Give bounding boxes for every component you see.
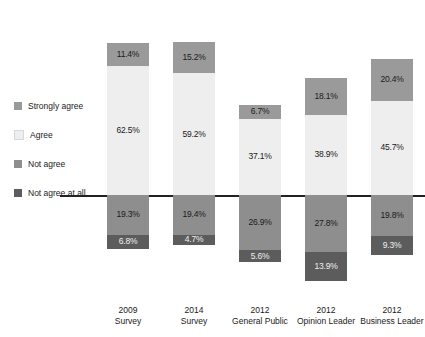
bar-segment-value-label: 37.1% bbox=[248, 152, 271, 161]
bar-segment-value-label: 19.8% bbox=[380, 211, 403, 220]
bar-segment-value-label: 19.3% bbox=[116, 210, 139, 219]
bar-segment-not-agree[interactable]: 19.8% bbox=[371, 195, 413, 236]
bar-segment-value-label: 20.4% bbox=[380, 75, 403, 84]
bar-segment-strongly-agree[interactable]: 11.4% bbox=[107, 43, 149, 66]
plot-area: 11.4%62.5%19.3%6.8%2009Survey15.2%59.2%1… bbox=[85, 8, 417, 293]
bar-segment-value-label: 4.7% bbox=[185, 235, 204, 244]
category-label-line: 2012 bbox=[347, 305, 425, 316]
bar-stack: 15.2%59.2%19.4%4.7% bbox=[173, 42, 215, 245]
legend-swatch-agree bbox=[14, 130, 24, 140]
bar-segment-agree[interactable]: 37.1% bbox=[239, 119, 281, 195]
bar-column[interactable]: 6.7%37.1%26.9%5.6% bbox=[239, 8, 281, 293]
bar-stack: 11.4%62.5%19.3%6.8% bbox=[107, 43, 149, 249]
bar-segment-value-label: 18.1% bbox=[314, 92, 337, 101]
bar-segment-not-agree-at-all[interactable]: 9.3% bbox=[371, 236, 413, 255]
bar-segment-strongly-agree[interactable]: 6.7% bbox=[239, 105, 281, 119]
bar-segment-not-agree[interactable]: 26.9% bbox=[239, 195, 281, 250]
bar-segment-value-label: 45.7% bbox=[380, 143, 403, 152]
bar-segment-value-label: 62.5% bbox=[116, 126, 139, 135]
bar-column[interactable]: 18.1%38.9%27.8%13.9% bbox=[305, 8, 347, 293]
bar-column[interactable]: 11.4%62.5%19.3%6.8% bbox=[107, 8, 149, 293]
bar-stack: 20.4%45.7%19.8%9.3% bbox=[371, 59, 413, 255]
bar-segment-value-label: 26.9% bbox=[248, 218, 271, 227]
bar-segment-value-label: 11.4% bbox=[117, 50, 139, 59]
bar-segment-not-agree[interactable]: 19.3% bbox=[107, 195, 149, 235]
bar-segment-value-label: 19.4% bbox=[182, 210, 205, 219]
bar-segment-not-agree-at-all[interactable]: 5.6% bbox=[239, 250, 281, 262]
legend-label-strongly-agree: Strongly agree bbox=[28, 102, 83, 111]
bar-segment-value-label: 38.9% bbox=[314, 150, 337, 159]
bar-segment-value-label: 6.7% bbox=[251, 107, 270, 116]
bar-segment-strongly-agree[interactable]: 15.2% bbox=[173, 42, 215, 73]
legend-label-not-agree: Not agree bbox=[28, 160, 65, 169]
bar-segment-agree[interactable]: 38.9% bbox=[305, 115, 347, 195]
bar-segment-agree[interactable]: 45.7% bbox=[371, 101, 413, 195]
bar-segment-value-label: 6.8% bbox=[119, 237, 138, 246]
bar-stack: 18.1%38.9%27.8%13.9% bbox=[305, 78, 347, 281]
bar-segment-not-agree[interactable]: 27.8% bbox=[305, 195, 347, 252]
chart-container: Strongly agree Agree Not agree Not agree… bbox=[0, 0, 425, 337]
bar-segment-value-label: 59.2% bbox=[182, 130, 205, 139]
bar-segment-not-agree[interactable]: 19.4% bbox=[173, 195, 215, 235]
legend-swatch-strongly-agree bbox=[14, 102, 22, 110]
bar-segment-strongly-agree[interactable]: 18.1% bbox=[305, 78, 347, 115]
bar-segment-not-agree-at-all[interactable]: 6.8% bbox=[107, 235, 149, 249]
bar-segment-value-label: 27.8% bbox=[314, 219, 337, 228]
bar-segment-agree[interactable]: 62.5% bbox=[107, 66, 149, 195]
bar-segment-not-agree-at-all[interactable]: 4.7% bbox=[173, 235, 215, 245]
legend-swatch-not-agree bbox=[14, 160, 22, 168]
bar-segment-strongly-agree[interactable]: 20.4% bbox=[371, 59, 413, 101]
bar-segment-value-label: 9.3% bbox=[383, 241, 402, 250]
bar-column[interactable]: 20.4%45.7%19.8%9.3% bbox=[371, 8, 413, 293]
bar-segment-value-label: 13.9% bbox=[314, 262, 337, 271]
bar-segment-value-label: 5.6% bbox=[251, 252, 270, 261]
category-label: 2012Business Leader bbox=[347, 305, 425, 327]
bar-segment-value-label: 15.2% bbox=[182, 53, 205, 62]
bar-stack: 6.7%37.1%26.9%5.6% bbox=[239, 105, 281, 262]
legend-swatch-not-agree-at-all bbox=[14, 189, 22, 197]
bar-segment-agree[interactable]: 59.2% bbox=[173, 73, 215, 195]
bar-segment-not-agree-at-all[interactable]: 13.9% bbox=[305, 252, 347, 281]
bar-column[interactable]: 15.2%59.2%19.4%4.7% bbox=[173, 8, 215, 293]
legend-label-agree: Agree bbox=[30, 131, 53, 140]
category-label-line: Business Leader bbox=[347, 316, 425, 327]
